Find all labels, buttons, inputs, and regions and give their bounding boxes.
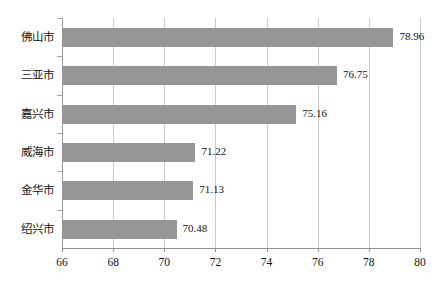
x-tick-label: 76 — [298, 256, 338, 268]
y-tick-mark — [57, 171, 62, 172]
bar-row: 70.48 — [62, 210, 420, 248]
y-tick-mark — [57, 56, 62, 57]
bar-row: 76.75 — [62, 56, 420, 94]
bar[interactable] — [62, 66, 337, 85]
x-tick-mark-70 — [164, 248, 165, 252]
bar-row: 78.96 — [62, 18, 420, 56]
x-tick-label: 70 — [144, 256, 184, 268]
x-tick-mark-76 — [318, 248, 319, 252]
plot-area: 78.9676.7575.1671.2271.1370.48 — [62, 18, 420, 248]
gridline-80 — [420, 18, 421, 248]
x-tick-label: 78 — [349, 256, 389, 268]
category-label: 三亚市 — [0, 66, 54, 85]
bar[interactable] — [62, 143, 195, 162]
x-tick-mark-66 — [62, 248, 63, 252]
bar-value-label: 71.13 — [199, 180, 224, 199]
bar-value-label: 75.16 — [302, 104, 327, 123]
x-tick-mark-74 — [267, 248, 268, 252]
y-tick-mark — [57, 133, 62, 134]
bar-value-label: 70.48 — [183, 219, 208, 238]
bar-value-label: 71.22 — [201, 142, 226, 161]
x-tick-mark-72 — [215, 248, 216, 252]
category-label: 威海市 — [0, 143, 54, 162]
x-tick-mark-80 — [420, 248, 421, 252]
category-label: 佛山市 — [0, 28, 54, 47]
bar[interactable] — [62, 181, 193, 200]
x-tick-label: 68 — [93, 256, 133, 268]
bar-chart: 78.9676.7575.1671.2271.1370.48 666870727… — [0, 0, 447, 287]
x-tick-mark-68 — [113, 248, 114, 252]
x-axis-line — [62, 248, 421, 249]
x-tick-label: 72 — [195, 256, 235, 268]
x-tick-label: 80 — [400, 256, 440, 268]
bar-row: 71.13 — [62, 171, 420, 209]
bar-value-label: 76.75 — [343, 65, 368, 84]
x-tick-label: 74 — [247, 256, 287, 268]
bar[interactable] — [62, 220, 177, 239]
x-tick-label: 66 — [42, 256, 82, 268]
bar-row: 75.16 — [62, 95, 420, 133]
bar[interactable] — [62, 105, 296, 124]
x-tick-mark-78 — [369, 248, 370, 252]
category-label: 绍兴市 — [0, 220, 54, 239]
category-label: 嘉兴市 — [0, 105, 54, 124]
y-tick-mark — [57, 210, 62, 211]
bar-row: 71.22 — [62, 133, 420, 171]
y-tick-mark — [57, 95, 62, 96]
bar-value-label: 78.96 — [399, 27, 424, 46]
bar[interactable] — [62, 28, 393, 47]
category-label: 金华市 — [0, 181, 54, 200]
y-tick-mark-top — [57, 18, 62, 19]
